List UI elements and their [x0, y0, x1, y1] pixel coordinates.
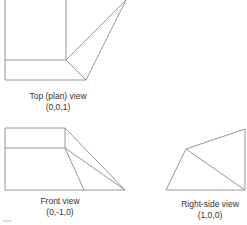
right-view-title: Right-side view: [170, 199, 247, 210]
top-view-title: Top (plan) view: [18, 91, 98, 102]
top-view-drawing: [5, 0, 126, 80]
front-view-label: Front view (0,-1,0): [20, 196, 100, 218]
right-view-label: Right-side view (1,0,0): [170, 199, 247, 221]
top-view-label: Top (plan) view (0,0,1): [18, 91, 98, 113]
front-view-drawing: [5, 128, 125, 190]
front-view-direction: (0,-1,0): [20, 207, 100, 218]
right-view-direction: (1,0,0): [170, 210, 247, 221]
top-view-direction: (0,0,1): [18, 102, 98, 113]
front-view-title: Front view: [20, 196, 100, 207]
right-view-drawing: [166, 129, 245, 190]
